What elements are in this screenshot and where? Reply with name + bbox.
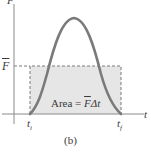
start-time-label: ti [27,117,32,132]
area-formula-label: Area = FΔt [51,97,100,109]
average-force-label: F [2,59,9,74]
end-time-label: tf [117,117,122,132]
figure-caption: (b) [64,134,77,146]
force-time-diagram [0,0,151,153]
y-axis-label: F [7,0,14,6]
x-axis-label: t [144,108,147,120]
